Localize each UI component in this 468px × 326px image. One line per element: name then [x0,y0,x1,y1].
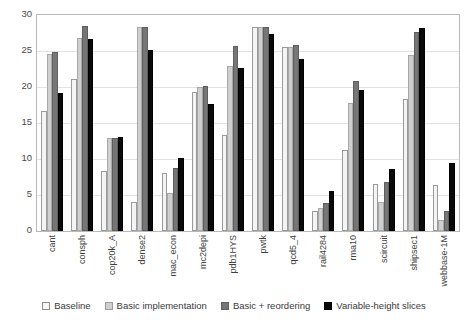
bar-group [37,15,67,231]
x-tick-label: dense2 [138,235,147,265]
y-tick-label: 0 [2,225,32,235]
x-tick: scircuit [369,233,399,295]
legend-swatch [105,302,113,310]
bar-group [67,15,97,231]
legend-label: Basic + reordering [233,301,310,311]
bar [208,104,214,231]
legend-label: Basic implementation [117,301,207,311]
bar-group [308,15,338,231]
chart-legend: BaselineBasic implementationBasic + reor… [0,301,468,311]
bar [148,50,154,231]
bar-groups [37,15,459,231]
bar [238,68,244,231]
legend-item: Basic + reordering [221,301,310,311]
bar-group [338,15,368,231]
y-tick-label: 25 [2,45,32,55]
x-tick: webbase-1M [429,233,459,295]
bar-group [188,15,218,231]
x-tick: mac_econ [158,233,188,295]
legend-item: Variable-height slices [324,301,426,311]
bar [58,93,64,231]
bar-group [429,15,459,231]
bar [329,191,335,231]
bar-chart: 051015202530 cantconsphcop20k_Adense2mac… [0,0,468,326]
x-tick-label: shipsec1 [409,235,418,271]
bar-group [127,15,157,231]
x-tick-label: rma10 [349,235,358,261]
legend-swatch [324,302,332,310]
bar [299,59,305,231]
bar [419,28,425,231]
bar [269,34,275,231]
bar-group [158,15,188,231]
bar-group [278,15,308,231]
bar-group [97,15,127,231]
x-tick-label: rail4284 [319,235,328,267]
x-axis: cantconsphcop20k_Adense2mac_econmc2depip… [37,233,459,295]
x-tick: rail4284 [308,233,338,295]
bar [359,90,365,231]
bar [178,158,184,231]
x-tick-label: cant [48,235,57,252]
legend-label: Baseline [54,301,90,311]
bar [449,163,455,231]
x-tick-label: webbase-1M [439,235,448,287]
y-tick-label: 5 [2,189,32,199]
legend-label: Variable-height slices [336,301,426,311]
x-tick: cant [37,233,67,295]
x-tick-label: scircuit [379,235,388,263]
x-tick: pdb1HYS [218,233,248,295]
bar-group [369,15,399,231]
x-tick-label: pwtk [259,235,268,254]
x-tick: dense2 [127,233,157,295]
legend-item: Basic implementation [105,301,207,311]
y-tick-label: 15 [2,117,32,127]
legend-swatch [42,302,50,310]
x-tick-label: mc2depi [198,235,207,269]
bar-group [399,15,429,231]
x-tick: pwtk [248,233,278,295]
x-tick: shipsec1 [399,233,429,295]
y-axis: 051015202530 [0,14,32,232]
x-tick-label: cop20k_A [108,235,117,275]
x-tick: rma10 [338,233,368,295]
x-tick: mc2depi [188,233,218,295]
bar [118,137,124,231]
bar [88,39,94,231]
legend-swatch [221,302,229,310]
x-tick-label: consph [78,235,87,264]
y-tick-label: 30 [2,9,32,19]
x-tick-label: qcd5_4 [289,235,298,265]
x-tick: cop20k_A [97,233,127,295]
x-tick-label: mac_econ [168,235,177,277]
x-tick: qcd5_4 [278,233,308,295]
bar-group [248,15,278,231]
x-tick: consph [67,233,97,295]
legend-item: Baseline [42,301,90,311]
y-tick-label: 10 [2,153,32,163]
y-tick-label: 20 [2,81,32,91]
bar [389,169,395,231]
bar-group [218,15,248,231]
x-tick-label: pdb1HYS [228,235,237,274]
